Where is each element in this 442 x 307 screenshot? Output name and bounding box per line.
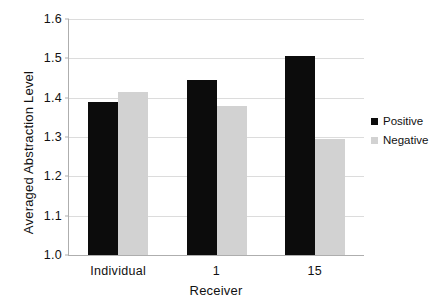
x-axis-tick-label: 1: [213, 264, 220, 278]
y-axis-tickmark: [65, 97, 69, 98]
bar-negative-1: [217, 106, 247, 255]
y-axis-tick-label: 1.4: [44, 91, 62, 105]
legend-label-positive: Positive: [383, 114, 423, 129]
y-axis-tick-label: 1.3: [44, 130, 62, 144]
y-axis-tickmark: [65, 176, 69, 177]
gridline: [69, 58, 364, 59]
gridline: [69, 98, 364, 99]
y-axis-tick-label: 1.2: [44, 169, 62, 183]
legend-label-negative: Negative: [383, 133, 428, 148]
x-axis-tick-label: Individual: [90, 264, 146, 278]
bar-positive-15: [285, 56, 315, 255]
bar-negative-individual: [118, 92, 148, 255]
x-axis-tick-label: 15: [308, 264, 323, 278]
chart-legend: Positive Negative: [371, 114, 428, 152]
plot-area: 1.61.51.41.31.21.11.0Individual115: [68, 19, 364, 256]
legend-item-negative: Negative: [371, 133, 428, 148]
y-axis-tickmark: [65, 19, 69, 20]
y-axis-tickmark: [65, 255, 69, 256]
y-axis-tick-label: 1.1: [44, 209, 62, 223]
legend-swatch-negative-icon: [371, 137, 378, 144]
y-axis-tickmark: [65, 137, 69, 138]
legend-swatch-positive-icon: [371, 118, 378, 125]
y-axis-tick-label: 1.5: [44, 51, 62, 65]
y-axis-tick-label: 1.0: [44, 248, 62, 262]
y-axis-tickmark: [65, 215, 69, 216]
bar-positive-1: [187, 80, 217, 255]
bar-positive-individual: [88, 102, 118, 255]
y-axis-tick-label: 1.6: [44, 12, 62, 26]
legend-item-positive: Positive: [371, 114, 428, 129]
bar-chart-figure: Averaged Abstraction Level 1.61.51.41.31…: [0, 0, 442, 307]
y-axis-tickmark: [65, 58, 69, 59]
x-axis-title: Receiver: [68, 283, 364, 298]
y-axis-title: Averaged Abstraction Level: [21, 33, 36, 273]
gridline: [69, 19, 364, 20]
bar-negative-15: [315, 139, 345, 255]
